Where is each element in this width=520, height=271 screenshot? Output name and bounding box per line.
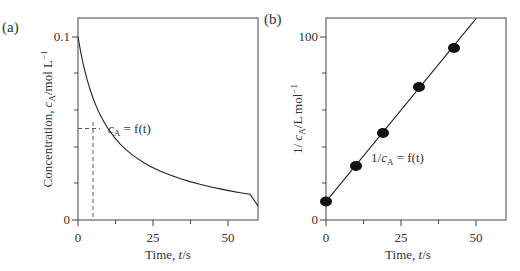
curve-annotation-a: cA = f(t)	[108, 121, 151, 138]
panel-a-label: (a)	[2, 19, 19, 36]
x-tick-label-50: 50	[222, 230, 235, 245]
y-tick-label-0-b: 0	[312, 212, 319, 227]
data-points	[320, 43, 460, 207]
x-tick-label-25-b: 25	[395, 230, 408, 245]
x-tick-label-0-b: 0	[323, 230, 330, 245]
x-tick-label-50-b: 50	[470, 230, 483, 245]
y-ticks-b	[320, 37, 326, 220]
y-tick-label-100: 100	[299, 29, 319, 44]
data-point	[413, 82, 425, 92]
plot-frame-b	[326, 18, 506, 220]
panel-b: (b) 100 0 0 25 50 Time, t/s 1/ cA/L mol−…	[264, 11, 506, 262]
y-axis-label-a: Concentration, cA/mol L−1	[39, 50, 57, 187]
figure: (a) 0.1 0 0 25 50 Time, t/s Concentratio…	[0, 0, 520, 271]
x-tick-label-0: 0	[75, 230, 82, 245]
data-point	[448, 43, 460, 53]
line-annotation-b: 1/cA = f(t)	[371, 150, 424, 167]
x-axis-label-b: Time, t/s	[385, 247, 431, 262]
dashed-guide-lines	[78, 122, 100, 220]
y-tick-label-0.1: 0.1	[54, 29, 70, 44]
x-ticks-b	[326, 220, 476, 226]
data-point	[377, 128, 389, 138]
data-point	[350, 161, 362, 171]
concentration-curve	[78, 37, 258, 206]
panel-a: (a) 0.1 0 0 25 50 Time, t/s Concentratio…	[2, 18, 258, 262]
x-ticks-a	[78, 220, 228, 226]
x-axis-label-a: Time, t/s	[145, 247, 191, 262]
plot-frame-a	[78, 18, 258, 220]
y-tick-label-0: 0	[64, 212, 71, 227]
panel-b-label: (b)	[264, 11, 282, 28]
y-axis-label-b: 1/ cA/L mol−1	[289, 84, 307, 154]
data-point	[320, 197, 332, 207]
x-tick-label-25: 25	[147, 230, 160, 245]
y-ticks-a	[72, 37, 78, 220]
